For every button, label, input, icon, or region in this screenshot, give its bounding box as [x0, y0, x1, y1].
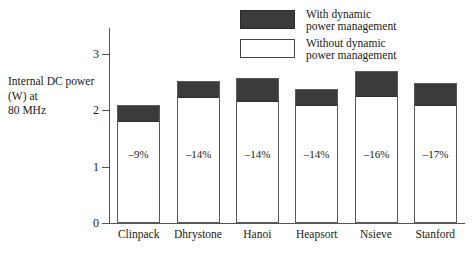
- y-axis-tick-label-3: 3: [73, 48, 99, 60]
- y-axis-tick-label-0: 0: [73, 217, 99, 229]
- y-axis-tick-label-1: 1: [73, 161, 99, 173]
- bar-segment-with-dynamic: [415, 84, 456, 106]
- bar-percent-label-nsieve: –16%: [356, 148, 397, 160]
- bar-segment-with-dynamic: [118, 106, 159, 122]
- bar-dhrystone: –14%: [177, 81, 220, 223]
- y-axis-tick-label-2: 2: [73, 104, 99, 116]
- bar-segment-with-dynamic: [178, 82, 219, 98]
- x-axis-label-stanford: Stanford: [406, 228, 465, 240]
- bar-percent-label-stanford: –17%: [415, 148, 456, 160]
- x-axis-line: [109, 223, 465, 224]
- x-axis-label-nsieve: Nsieve: [346, 228, 405, 240]
- bar-segment-with-dynamic: [356, 72, 397, 97]
- y-axis-line: [109, 28, 110, 224]
- y-axis-tick-1: [102, 167, 110, 168]
- bar-percent-label-heapsort: –14%: [296, 148, 337, 160]
- bar-hanoi: –14%: [236, 78, 279, 223]
- bar-percent-label-clinpack: –9%: [118, 148, 159, 160]
- plot-area: 0123–9%Clinpack–14%Dhrystone–14%Hanoi–14…: [0, 0, 472, 253]
- bar-clinpack: –9%: [117, 105, 160, 223]
- bar-percent-label-hanoi: –14%: [237, 148, 278, 160]
- bar-chart: With dynamic power management Without dy…: [0, 0, 472, 253]
- x-axis-label-hanoi: Hanoi: [228, 228, 287, 240]
- bar-heapsort: –14%: [295, 89, 338, 223]
- bar-stanford: –17%: [414, 83, 457, 223]
- x-axis-label-clinpack: Clinpack: [109, 228, 168, 240]
- bar-segment-with-dynamic: [237, 79, 278, 102]
- bar-segment-with-dynamic: [296, 90, 337, 106]
- bar-percent-label-dhrystone: –14%: [178, 148, 219, 160]
- x-axis-label-dhrystone: Dhrystone: [168, 228, 227, 240]
- y-axis-tick-3: [102, 54, 110, 55]
- y-axis-tick-0: [102, 223, 110, 224]
- bar-nsieve: –16%: [355, 71, 398, 223]
- y-axis-tick-2: [102, 110, 110, 111]
- x-axis-label-heapsort: Heapsort: [287, 228, 346, 240]
